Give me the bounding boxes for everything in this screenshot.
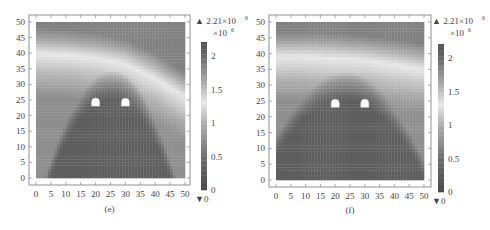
heatmap-cell bbox=[344, 79, 347, 82]
heatmap-cell bbox=[374, 142, 377, 145]
heatmap-cell bbox=[353, 120, 356, 123]
heatmap-cell bbox=[312, 142, 315, 145]
heatmap-cell bbox=[84, 147, 87, 150]
heatmap-cell bbox=[418, 50, 421, 53]
heatmap-cell bbox=[72, 56, 75, 59]
heatmap-cell bbox=[134, 166, 137, 169]
heatmap-cell bbox=[294, 98, 297, 101]
heatmap-cell bbox=[359, 110, 362, 113]
heatmap-cell bbox=[365, 120, 368, 123]
heatmap-cell bbox=[170, 25, 173, 28]
heatmap-cell bbox=[99, 31, 102, 34]
heatmap-cell bbox=[291, 120, 294, 123]
heatmap-cell bbox=[96, 28, 99, 31]
heatmap-cell bbox=[48, 97, 51, 100]
heatmap-cell bbox=[102, 56, 105, 59]
heatmap-cell bbox=[306, 88, 309, 91]
heatmap-cell bbox=[182, 50, 185, 53]
heatmap-cell bbox=[371, 161, 374, 164]
heatmap-cell bbox=[314, 57, 317, 60]
heatmap-cell bbox=[39, 153, 42, 156]
heatmap-cell bbox=[164, 125, 167, 128]
heatmap-cell bbox=[102, 119, 105, 122]
heatmap-cell bbox=[108, 103, 111, 106]
heatmap-cell bbox=[317, 104, 320, 107]
heatmap-cell bbox=[63, 81, 66, 84]
heatmap-cell bbox=[332, 22, 335, 25]
heatmap-cell bbox=[36, 44, 39, 47]
heatmap-cell bbox=[87, 56, 90, 59]
heatmap-cell bbox=[137, 50, 140, 53]
heatmap-cell bbox=[57, 116, 60, 119]
heatmap-cell bbox=[344, 171, 347, 174]
heatmap-cell bbox=[288, 47, 291, 50]
heatmap-cell bbox=[48, 175, 51, 178]
heatmap-cell bbox=[359, 167, 362, 170]
heatmap-cell bbox=[81, 147, 84, 150]
heatmap-cell bbox=[108, 72, 111, 75]
heatmap-cell bbox=[300, 101, 303, 104]
heatmap-cell bbox=[303, 88, 306, 91]
heatmap-cell bbox=[137, 128, 140, 131]
heatmap-cell bbox=[314, 117, 317, 120]
heatmap-cell bbox=[105, 41, 108, 44]
heatmap-cell bbox=[344, 25, 347, 28]
heatmap-cell bbox=[102, 106, 105, 109]
heatmap-cell bbox=[388, 152, 391, 155]
heatmap-cell bbox=[403, 104, 406, 107]
heatmap-cell bbox=[350, 95, 353, 98]
heatmap-cell bbox=[344, 142, 347, 145]
heatmap-cell bbox=[338, 35, 341, 38]
heatmap-cell bbox=[102, 125, 105, 128]
heatmap-cell bbox=[362, 38, 365, 41]
heatmap-cell bbox=[179, 22, 182, 25]
heatmap-cell bbox=[66, 159, 69, 162]
heatmap-cell bbox=[182, 125, 185, 128]
heatmap-cell bbox=[397, 44, 400, 47]
heatmap-cell bbox=[362, 28, 365, 31]
heatmap-cell bbox=[45, 34, 48, 37]
heatmap-cell bbox=[329, 145, 332, 148]
heatmap-cell bbox=[347, 44, 350, 47]
heatmap-cell bbox=[72, 175, 75, 178]
heatmap-cell bbox=[359, 114, 362, 117]
heatmap-cell bbox=[128, 38, 131, 41]
heatmap-cell bbox=[317, 117, 320, 120]
heatmap-cell bbox=[380, 85, 383, 88]
heatmap-cell bbox=[60, 100, 63, 103]
heatmap-cell bbox=[388, 114, 391, 117]
heatmap-cell bbox=[48, 84, 51, 87]
heatmap-cell bbox=[391, 129, 394, 132]
heatmap-cell bbox=[344, 76, 347, 79]
heatmap-cell bbox=[397, 82, 400, 85]
heatmap-cell bbox=[386, 152, 389, 155]
heatmap-cell bbox=[386, 79, 389, 82]
heatmap-cell bbox=[285, 171, 288, 174]
heatmap-cell bbox=[297, 155, 300, 158]
heatmap-cell bbox=[397, 158, 400, 161]
heatmap-cell bbox=[323, 88, 326, 91]
heatmap-cell bbox=[294, 107, 297, 110]
heatmap-cell bbox=[415, 123, 418, 126]
heatmap-cell bbox=[63, 109, 66, 112]
heatmap-cell bbox=[176, 141, 179, 144]
heatmap-cell bbox=[332, 79, 335, 82]
heatmap-cell bbox=[69, 72, 72, 75]
heatmap-cell bbox=[54, 137, 57, 140]
heatmap-cell bbox=[309, 161, 312, 164]
heatmap-cell bbox=[294, 136, 297, 139]
heatmap-cell bbox=[312, 44, 315, 47]
heatmap-cell bbox=[344, 54, 347, 57]
heatmap-cell bbox=[134, 78, 137, 81]
heatmap-cell bbox=[119, 134, 122, 137]
heatmap-cell bbox=[288, 139, 291, 142]
heatmap-cell bbox=[317, 38, 320, 41]
heatmap-cell bbox=[164, 75, 167, 78]
heatmap-cell bbox=[421, 101, 424, 104]
heatmap-cell bbox=[368, 158, 371, 161]
heatmap-cell bbox=[54, 91, 57, 94]
heatmap-cell bbox=[309, 41, 312, 44]
heatmap-cell bbox=[149, 91, 152, 94]
heatmap-cell bbox=[371, 85, 374, 88]
heatmap-cell bbox=[102, 72, 105, 75]
